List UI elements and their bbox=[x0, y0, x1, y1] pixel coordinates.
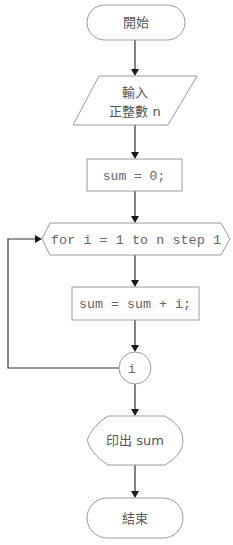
arrow-icon bbox=[35, 235, 42, 243]
arrow-icon bbox=[131, 491, 139, 498]
end-label: 結束 bbox=[122, 511, 148, 526]
loop-node: for i = 1 to n step 1 bbox=[42, 223, 230, 255]
arrow-icon bbox=[131, 280, 139, 287]
body-node: sum = sum + i; bbox=[72, 287, 199, 320]
body-label: sum = sum + i; bbox=[79, 297, 191, 312]
init-label: sum = 0; bbox=[103, 169, 165, 184]
arrow-icon bbox=[131, 345, 139, 352]
arrow-icon bbox=[131, 152, 139, 159]
start-node: 開始 bbox=[87, 5, 185, 40]
arrow-icon bbox=[131, 69, 139, 76]
arrow-icon bbox=[131, 216, 139, 223]
input-node: 輸入 正整數 n bbox=[73, 76, 197, 125]
input-label-line1: 輸入 bbox=[122, 85, 148, 100]
loop-label: for i = 1 to n step 1 bbox=[51, 233, 221, 248]
start-label: 開始 bbox=[123, 15, 149, 30]
input-label-line2: 正整數 n bbox=[109, 104, 160, 119]
flowchart: 開始 輸入 正整數 n sum = 0; for i = 1 to n step… bbox=[0, 0, 233, 545]
connector-node: i bbox=[119, 352, 151, 384]
connector-label: i bbox=[128, 362, 136, 377]
output-label: 印出 sum bbox=[106, 433, 164, 448]
end-node: 結束 bbox=[87, 498, 183, 538]
output-node: 印出 sum bbox=[87, 416, 183, 465]
arrow-icon bbox=[131, 409, 139, 416]
init-node: sum = 0; bbox=[87, 159, 182, 191]
